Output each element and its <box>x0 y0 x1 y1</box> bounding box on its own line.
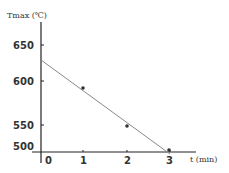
y-tick-label: 600 <box>13 76 34 87</box>
y-tick-label: 500 <box>13 141 34 152</box>
data-point <box>81 86 85 90</box>
y-axis-title: Tmax (℃) <box>7 11 47 20</box>
x-tick-label: 1 <box>80 155 87 166</box>
x-tick-label: 0 <box>45 155 52 166</box>
data-points <box>81 86 171 152</box>
data-point <box>167 148 171 152</box>
x-tick-label: 3 <box>166 155 173 166</box>
y-tick-label: 650 <box>13 40 34 51</box>
x-axis-title: t (min) <box>190 155 217 164</box>
y-tick-label: 550 <box>13 120 34 131</box>
y-ticks: 650 600 550 500 <box>13 40 44 152</box>
fit-line <box>41 60 170 154</box>
chart: Tmax (℃) 650 600 550 500 0 1 2 3 t (min) <box>0 0 229 173</box>
x-tick-label: 2 <box>124 155 131 166</box>
data-point <box>125 124 129 128</box>
